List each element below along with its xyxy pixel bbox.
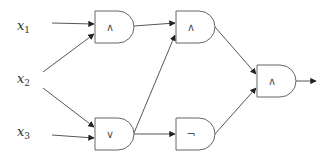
svg-text:∧: ∧ — [268, 75, 276, 88]
wire-g2-g3 — [134, 35, 175, 133]
wire-g1-g3 — [134, 23, 175, 26]
svg-text:¬: ¬ — [186, 128, 195, 141]
input-label-x1: x1 — [17, 18, 30, 35]
wire-x1-g1 — [52, 23, 94, 24]
gate-g3-and: ∧ — [176, 11, 215, 43]
gate-g5-and-output: ∧ — [257, 65, 296, 97]
gate-g2-or: ∨ — [95, 118, 134, 150]
gate-g4-not: ¬ — [176, 118, 215, 150]
svg-text:∧: ∧ — [106, 21, 114, 34]
wire-x2-g1 — [43, 34, 94, 72]
wire-g4-g5 — [215, 88, 256, 134]
input-label-x3: x3 — [17, 124, 30, 141]
svg-text:∨: ∨ — [106, 128, 114, 141]
wire-g3-g5 — [215, 27, 256, 74]
wire-x3-g2 — [52, 135, 94, 138]
logic-circuit-diagram: x1 x2 x3 ∧ ∨ ∧ ¬ ∧ — [0, 0, 333, 162]
gate-g1-and: ∧ — [95, 11, 134, 43]
svg-text:∧: ∧ — [187, 21, 195, 34]
wire-x2-g2 — [43, 88, 94, 127]
input-label-x2: x2 — [17, 71, 30, 88]
